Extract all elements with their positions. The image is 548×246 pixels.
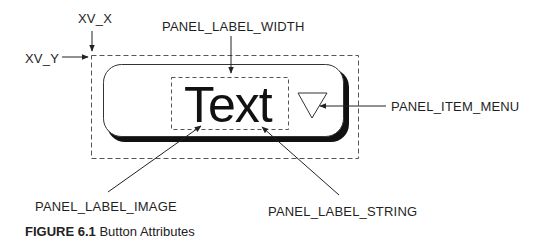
figure-caption: FIGURE 6.1 Button Attributes [25,224,195,239]
panel-item-menu-label: PANEL_ITEM_MENU [391,99,519,114]
panel-label-string-label: PANEL_LABEL_STRING [268,204,417,219]
button-label-text: Text [184,80,272,130]
figure-title: Button Attributes [99,224,194,239]
xv-y-label: XV_Y [25,51,59,66]
xv-x-label: XV_X [78,11,112,26]
figure-number: FIGURE 6.1 [25,224,96,239]
panel-label-width-label: PANEL_LABEL_WIDTH [162,19,305,34]
panel-label-image-label: PANEL_LABEL_IMAGE [35,199,177,214]
